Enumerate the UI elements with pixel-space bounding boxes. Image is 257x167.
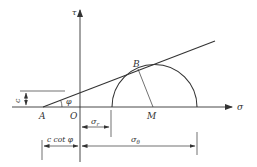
angle-phi-arc bbox=[61, 100, 62, 107]
point-a-label: A bbox=[38, 111, 46, 121]
c-dimension-label: c bbox=[13, 98, 22, 103]
tau-axis-label: τ bbox=[72, 8, 77, 17]
point-o-label: O bbox=[70, 111, 78, 121]
sigma-axis-label: σ bbox=[237, 102, 244, 112]
mohr-semicircle bbox=[112, 65, 197, 108]
mohr-circle-diagram: σ τ φ A O B M c σr c cot φ σθ bbox=[0, 0, 257, 167]
point-m-label: M bbox=[146, 111, 157, 121]
point-b-label: B bbox=[132, 59, 140, 69]
ccotphi-label: c cot φ bbox=[47, 135, 74, 144]
sigma-theta-label: σθ bbox=[131, 135, 140, 145]
angle-phi-label: φ bbox=[66, 97, 72, 106]
radius-mb bbox=[138, 69, 153, 107]
sigma-r-label: σr bbox=[91, 117, 99, 127]
